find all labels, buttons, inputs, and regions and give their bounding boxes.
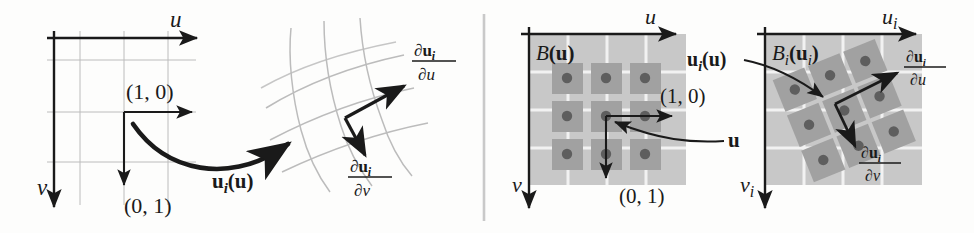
sample-dot [562, 73, 572, 83]
left-deriv-v-label: ∂ui ∂v [348, 157, 392, 200]
left-mapping-label-arg: (u) [228, 169, 254, 193]
right-mapping-label-main: u [687, 48, 698, 70]
left-panel-group: u v (1, 0) (0, 1) [37, 7, 456, 218]
sample-dot [640, 149, 650, 159]
left-basis-u-label: (1, 0) [126, 79, 174, 104]
source-axis-u-label: u [645, 4, 656, 29]
left-warped-grid [261, 18, 428, 192]
source-block-group: u v B(u) (1, 0) (0, 1) u [512, 4, 740, 208]
target-axis-v-label-sub: i [750, 183, 754, 200]
target-block-label-arg-close: ) [812, 41, 819, 65]
left-axis-v-label: v [37, 175, 48, 200]
left-deriv-u-den: ∂u [418, 65, 435, 84]
target-block-label-arg: (u [789, 41, 808, 65]
source-block-label-main: B [536, 41, 549, 65]
sample-dot [562, 149, 572, 159]
source-point-label: u [728, 128, 740, 152]
target-axis-v-label: vi [740, 172, 754, 200]
source-basis-v-label: (0, 1) [619, 184, 665, 208]
left-mapping-label-main: u [212, 169, 224, 193]
left-deriv-v-den: ∂v [354, 181, 370, 200]
figure-root: u v (1, 0) (0, 1) [0, 0, 974, 233]
target-axis-v-label-main: v [740, 172, 750, 197]
sample-dot [562, 111, 572, 121]
target-deriv-v-num: ∂u [861, 144, 878, 161]
source-basis-u-label: (1, 0) [660, 84, 706, 108]
target-block-label: Bi(ui) [772, 41, 819, 68]
sample-dot [601, 73, 611, 83]
left-deriv-u-num: ∂u [414, 41, 432, 60]
figure-canvas: u v (1, 0) (0, 1) [0, 0, 974, 233]
svg-text:ui(u): ui(u) [212, 169, 254, 196]
target-block-group: ui vi Bi(ui) ∂ui ∂u [740, 4, 946, 208]
source-axis-v-label: v [512, 172, 522, 197]
left-tangent-u-arrow [345, 86, 404, 118]
svg-text:∂ui: ∂ui [414, 41, 436, 63]
right-mapping-label-group: ui(u) [687, 48, 726, 74]
target-deriv-v-den: ∂v [865, 167, 881, 184]
source-block-label: B(u) [536, 41, 575, 65]
target-axis-u-label-main: u [882, 4, 893, 29]
left-basis-v-label: (0, 1) [124, 193, 172, 218]
target-axis-u-label: ui [882, 4, 897, 32]
sample-dot [640, 73, 650, 83]
svg-text:ui(u): ui(u) [687, 48, 726, 74]
target-deriv-u-den: ∂u [910, 71, 926, 88]
target-block-label-main: B [772, 41, 785, 65]
target-deriv-u-num: ∂u [906, 48, 923, 65]
left-mapping-label: ui(u) [212, 169, 254, 196]
left-deriv-u-label: ∂ui ∂u [412, 41, 456, 84]
left-parameter-grid [47, 31, 196, 205]
target-axis-u-label-sub: i [893, 15, 897, 32]
right-mapping-label-arg: (u) [702, 48, 726, 71]
source-block-label-arg: (u) [549, 41, 575, 65]
svg-text:∂ui: ∂ui [350, 157, 372, 179]
left-tangent-v-arrow [345, 118, 365, 155]
left-deriv-v-num: ∂u [350, 157, 368, 176]
left-axis-u-label: u [170, 7, 182, 32]
